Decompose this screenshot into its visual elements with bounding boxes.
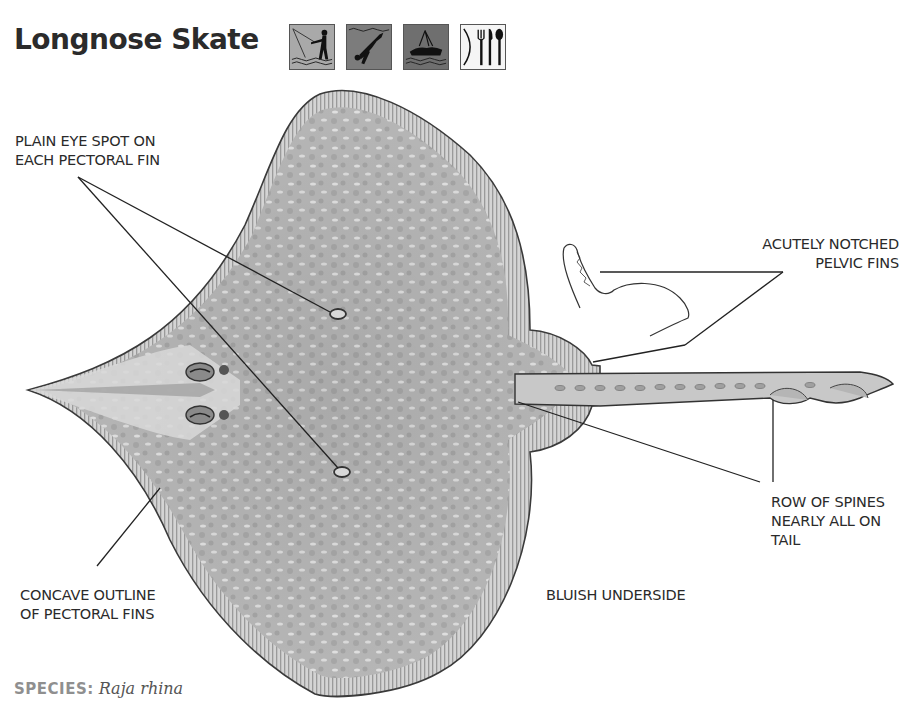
label-bluish-underside: BLUISH UNDERSIDE	[546, 586, 685, 605]
species-value: Raja rhina	[99, 679, 183, 698]
label-pelvic-fins: ACUTELY NOTCHED PELVIC FINS	[762, 235, 899, 273]
species-line: SPECIES:Raja rhina	[14, 679, 183, 698]
species-key: SPECIES:	[14, 680, 94, 698]
label-eye-spot: PLAIN EYE SPOT ON EACH PECTORAL FIN	[15, 132, 160, 170]
label-concave-outline: CONCAVE OUTLINE OF PECTORAL FINS	[20, 586, 155, 624]
label-spines: ROW OF SPINES NEARLY ALL ON TAIL	[771, 493, 885, 550]
